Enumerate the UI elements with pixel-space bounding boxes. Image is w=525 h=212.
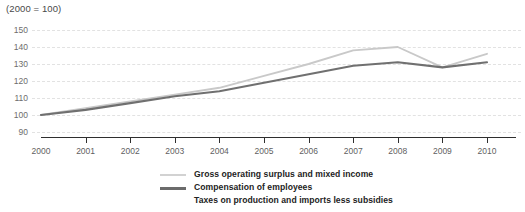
x-tick-2004 — [219, 137, 220, 143]
x-tick-2001 — [86, 137, 87, 143]
x-tick-2010 — [487, 137, 488, 143]
x-tick-label-2008: 2008 — [388, 146, 407, 156]
x-tick-label-2009: 2009 — [433, 146, 452, 156]
x-tick-label-2004: 2004 — [210, 146, 229, 156]
x-tick-label-2006: 2006 — [299, 146, 318, 156]
x-tick-label-2007: 2007 — [344, 146, 363, 156]
x-tick-2005 — [264, 137, 265, 143]
x-tick-2008 — [398, 137, 399, 143]
x-tick-label-2001: 2001 — [76, 146, 95, 156]
x-tick-2006 — [309, 137, 310, 143]
legend-item-1: Compensation of employees — [160, 182, 520, 195]
chart-legend: Gross operating surplus and mixed income… — [160, 169, 520, 208]
legend-item-2: Taxes on production and imports less sub… — [160, 195, 520, 208]
chart-container: (2000 = 100) 90100110120130140150 200020… — [0, 0, 525, 212]
x-axis-line — [41, 137, 516, 138]
series-line-1 — [41, 62, 487, 115]
x-tick-label-2003: 2003 — [165, 146, 184, 156]
legend-swatch-0 — [160, 174, 186, 176]
legend-label-1: Compensation of employees — [194, 182, 312, 192]
legend-label-2: Taxes on production and imports less sub… — [194, 195, 393, 205]
series-line-0 — [41, 47, 487, 115]
chart-unit-note: (2000 = 100) — [6, 3, 61, 14]
x-tick-label-2000: 2000 — [32, 146, 51, 156]
x-tick-label-2005: 2005 — [255, 146, 274, 156]
x-tick-2002 — [130, 137, 131, 143]
x-tick-2009 — [442, 137, 443, 143]
legend-item-0: Gross operating surplus and mixed income — [160, 169, 520, 182]
x-tick-2007 — [353, 137, 354, 143]
legend-label-0: Gross operating surplus and mixed income — [194, 169, 373, 179]
x-tick-label-2002: 2002 — [121, 146, 140, 156]
series-lines — [0, 22, 525, 140]
x-tick-2003 — [175, 137, 176, 143]
legend-swatch-1 — [160, 187, 186, 190]
x-tick-label-2010: 2010 — [478, 146, 497, 156]
